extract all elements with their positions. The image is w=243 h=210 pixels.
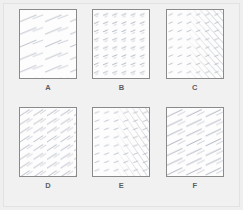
hatch-swatch-f[interactable] [166,107,224,177]
panel-label-d: D [45,182,51,190]
hatch-art-c [167,10,223,78]
panel-label-b: B [119,84,125,92]
panel-cell-e: E [87,107,155,203]
panel-label-a: A [45,84,51,92]
hatch-swatch-d[interactable] [19,107,77,177]
panel-cell-f: F [161,107,229,203]
hatch-swatch-a[interactable] [19,9,77,79]
hatch-art-b [93,10,149,78]
hatch-pattern-figure: A B [0,0,243,210]
panel-label-e: E [119,182,124,190]
hatch-art-d [20,108,76,176]
panel-cell-b: B [87,9,155,105]
hatch-swatch-e[interactable] [92,107,150,177]
panel-cell-d: D [14,107,82,203]
hatch-swatch-b[interactable] [92,9,150,79]
hatch-swatch-c[interactable] [166,9,224,79]
panel-cell-c: C [161,9,229,105]
hatch-art-a [20,10,76,78]
panel-grid: A B [0,0,243,210]
hatch-art-f [167,108,223,176]
panel-label-f: F [192,182,197,190]
hatch-art-e [93,108,149,176]
panel-cell-a: A [14,9,82,105]
panel-label-c: C [192,84,198,92]
